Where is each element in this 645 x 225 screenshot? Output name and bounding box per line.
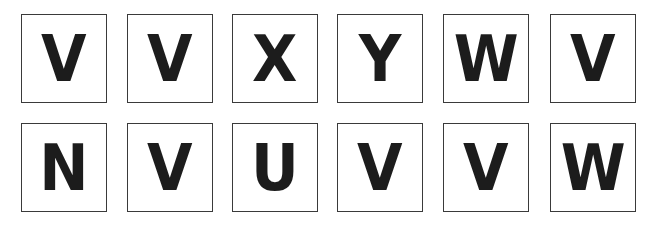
- letter-tile[interactable]: V: [550, 14, 636, 103]
- letter-tile[interactable]: V: [127, 14, 213, 103]
- letter-tile[interactable]: X: [232, 14, 318, 103]
- tile-letter: X: [252, 27, 297, 91]
- letter-tile[interactable]: N: [21, 123, 107, 212]
- letter-tile[interactable]: V: [443, 123, 529, 212]
- tile-letter: V: [147, 27, 193, 91]
- letter-tile[interactable]: V: [21, 14, 107, 103]
- tile-letter: V: [41, 27, 87, 91]
- letter-tile[interactable]: W: [550, 123, 636, 212]
- letter-tile[interactable]: V: [337, 123, 423, 212]
- tile-letter: V: [147, 136, 193, 200]
- letter-tile[interactable]: U: [232, 123, 318, 212]
- tile-letter: U: [251, 136, 299, 200]
- tile-letter: Y: [359, 27, 402, 91]
- tile-letter: W: [454, 27, 519, 91]
- tile-letter: V: [357, 136, 403, 200]
- letter-tile[interactable]: V: [127, 123, 213, 212]
- tile-letter: V: [463, 136, 509, 200]
- tile-letter: V: [570, 27, 616, 91]
- tile-letter: N: [39, 136, 88, 200]
- letter-tile[interactable]: Y: [337, 14, 423, 103]
- tile-letter: W: [561, 136, 626, 200]
- letter-tile[interactable]: W: [443, 14, 529, 103]
